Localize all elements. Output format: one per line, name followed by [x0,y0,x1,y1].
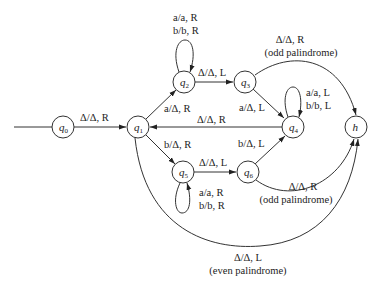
label-q1-q5: b/Δ, R [164,139,191,150]
state-q1: q1 [127,116,149,138]
label-q2-loop-2: b/b, R [173,25,199,36]
label-q5-loop-2: b/b, R [199,200,225,211]
label-q5-loop-1: a/a, R [199,187,224,198]
state-q3: q3 [234,71,256,93]
state-q6: q6 [237,161,259,183]
label-q2-q3: Δ/Δ, L [198,67,226,78]
state-h: h [345,116,367,138]
label-q3-q4: a/Δ, L [239,102,265,113]
svg-text:h: h [353,121,359,133]
label-q1-h-2: (even palindrome) [209,265,287,277]
label-q6-h-1: Δ/Δ, R [289,181,318,192]
edge-q2-loop [176,40,193,72]
turing-machine-diagram: q0 q1 q2 q3 q4 q5 q6 h Δ/Δ, R a/Δ, R a/a… [0,0,383,281]
label-q4-q1: Δ/Δ, R [197,114,226,125]
label-q1-q2: a/Δ, R [164,103,191,114]
label-q6-h-2: (odd palindrome) [259,194,333,206]
state-q0: q0 [52,116,74,138]
state-q5: q5 [172,161,194,183]
label-q0-q1: Δ/Δ, R [80,112,109,123]
label-q5-q6: Δ/Δ, L [199,157,227,168]
label-q2-loop-1: a/a, R [173,12,198,23]
label-q6-q4: b/Δ, L [238,138,265,149]
label-q4-loop-1: a/a, L [306,87,330,98]
edge-q1-h [135,138,358,246]
label-q3-h-2: (odd palindrome) [264,47,338,59]
label-q4-loop-2: b/b, L [306,100,331,111]
label-q1-h-1: Δ/Δ, L [234,252,262,263]
edge-q4-loop [285,87,301,117]
edge-q5-loop [176,183,190,213]
label-q3-h-1: Δ/Δ, R [276,34,305,45]
state-q4: q4 [282,116,304,138]
state-q2: q2 [173,71,195,93]
